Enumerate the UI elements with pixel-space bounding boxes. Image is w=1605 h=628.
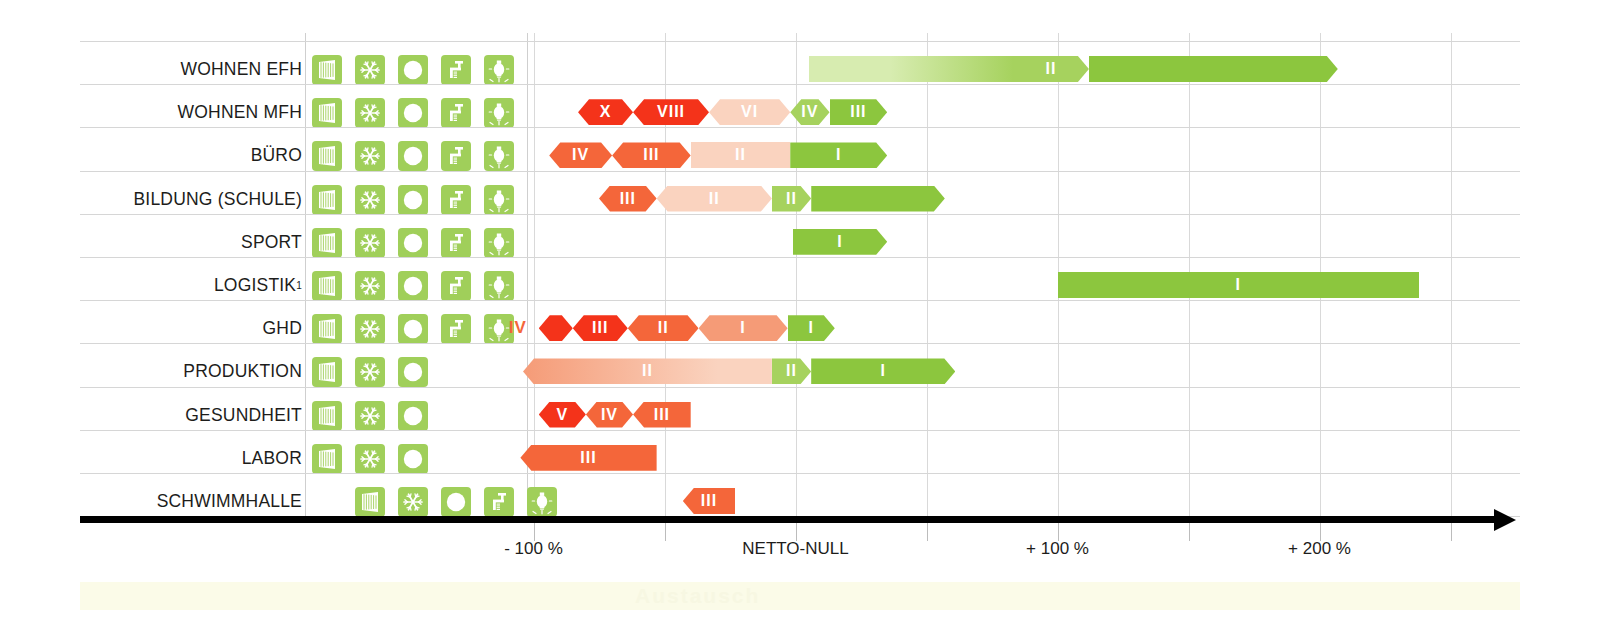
blinds-icon xyxy=(355,487,385,517)
bar-segment[interactable]: IV xyxy=(586,402,633,428)
axis-tick-label: + 100 % xyxy=(1026,539,1089,559)
bar[interactable]: XVIIIVIIVIII xyxy=(578,99,887,125)
bar-segment[interactable]: I xyxy=(793,229,887,255)
bar-segment-numeral: V xyxy=(556,407,568,423)
bar-segment[interactable]: III xyxy=(830,99,888,125)
bar-segment[interactable] xyxy=(539,315,573,341)
faucet-icon xyxy=(441,185,471,215)
bar-segment[interactable]: III xyxy=(633,402,691,428)
row-divider xyxy=(80,41,1520,42)
bar-segment[interactable]: IV xyxy=(549,142,612,168)
bar-segment[interactable]: I xyxy=(788,315,835,341)
circle-icon xyxy=(398,185,428,215)
circle-icon xyxy=(441,487,471,517)
bar[interactable]: I xyxy=(1058,272,1420,298)
bar-segment[interactable] xyxy=(1089,56,1338,82)
lightbulb-icon xyxy=(484,185,514,215)
bar-segment[interactable]: VI xyxy=(709,99,790,125)
bar-segment[interactable]: II xyxy=(691,142,791,168)
bar-segment-numeral: II xyxy=(1045,61,1056,77)
circle-icon xyxy=(398,55,428,85)
blinds-icon xyxy=(312,357,342,387)
axis-tick-label: - 100 % xyxy=(504,539,563,559)
bar-segment-numeral: III xyxy=(654,407,670,423)
faucet-icon xyxy=(441,141,471,171)
lightbulb-icon xyxy=(527,487,557,517)
bar-segment-numeral: II xyxy=(709,191,720,207)
circle-icon xyxy=(398,141,428,171)
lightbulb-icon xyxy=(484,271,514,301)
blinds-icon xyxy=(312,228,342,258)
bar-segment[interactable]: III xyxy=(612,142,691,168)
faucet-icon xyxy=(441,314,471,344)
circle-icon xyxy=(398,314,428,344)
bar-segment-numeral: III xyxy=(620,191,636,207)
bar-segment[interactable]: X xyxy=(578,99,633,125)
circle-icon xyxy=(398,401,428,431)
snowflake-icon xyxy=(355,185,385,215)
faucet-icon xyxy=(441,271,471,301)
bar-segment[interactable] xyxy=(811,186,945,212)
bar-segment-numeral: III xyxy=(580,450,596,466)
blinds-icon xyxy=(312,141,342,171)
axis-tick-label: + 200 % xyxy=(1288,539,1351,559)
bar-segment-numeral: VI xyxy=(741,104,758,120)
bar-segment[interactable]: I xyxy=(699,315,788,341)
bar[interactable]: IIIII xyxy=(523,358,955,384)
faucet-icon xyxy=(441,98,471,128)
bar[interactable]: VIVIII xyxy=(539,402,691,428)
bar[interactable]: I xyxy=(793,229,887,255)
bar-segment[interactable]: II xyxy=(657,186,772,212)
bar-segment-numeral: IV xyxy=(572,147,589,163)
bar[interactable]: IIIIIII xyxy=(599,186,945,212)
bar-segment[interactable]: III xyxy=(683,488,735,514)
bar-segment-numeral: II xyxy=(735,147,746,163)
bar-segment-numeral: I xyxy=(1236,277,1241,293)
snowflake-icon xyxy=(355,141,385,171)
faucet-icon xyxy=(441,55,471,85)
circle-icon xyxy=(398,98,428,128)
bar-segment[interactable]: II xyxy=(523,358,772,384)
bar-segment[interactable]: I xyxy=(1058,272,1420,298)
bar-segment-numeral: IV xyxy=(801,104,818,120)
row-divider xyxy=(80,127,1520,128)
x-axis-line xyxy=(80,516,1500,523)
bar-segment[interactable]: IV xyxy=(790,99,829,125)
chart-canvas: Austausch WOHNEN EFHIIWOHNEN MFHXVIIIVII… xyxy=(0,0,1605,628)
bar[interactable]: III xyxy=(520,445,656,471)
bar-segment[interactable]: II xyxy=(628,315,699,341)
bar[interactable]: IVIIIIII xyxy=(549,142,887,168)
bar-segment[interactable]: II xyxy=(772,186,811,212)
bar-segment[interactable]: II xyxy=(772,358,811,384)
blinds-icon xyxy=(312,314,342,344)
bar-segment-numeral: III xyxy=(643,147,659,163)
bar[interactable]: III xyxy=(683,488,735,514)
bar-segment[interactable] xyxy=(809,56,1013,82)
bar-segment-numeral: III xyxy=(701,493,717,509)
bar-segment[interactable]: III xyxy=(520,445,656,471)
bar-segment-numeral: X xyxy=(600,104,612,120)
blinds-icon xyxy=(312,98,342,128)
bar-segment[interactable]: I xyxy=(811,358,955,384)
snowflake-icon xyxy=(355,401,385,431)
bar-segment[interactable]: III xyxy=(573,315,628,341)
bar-segment[interactable]: III xyxy=(599,186,657,212)
bar-segment[interactable]: I xyxy=(790,142,887,168)
row-divider xyxy=(80,171,1520,172)
blinds-icon xyxy=(312,444,342,474)
blinds-icon xyxy=(312,55,342,85)
bar-segment-numeral: III xyxy=(850,104,866,120)
snowflake-icon xyxy=(355,98,385,128)
bar-segment-numeral: II xyxy=(658,320,669,336)
row-divider xyxy=(80,473,1520,474)
watermark-text: Austausch xyxy=(635,584,760,608)
axis-tick xyxy=(1451,523,1452,541)
bar[interactable]: II xyxy=(809,56,1338,82)
bar[interactable]: IIIIIII xyxy=(539,315,835,341)
bar-segment[interactable]: VIII xyxy=(633,99,709,125)
axis-tick xyxy=(927,523,928,541)
circle-icon xyxy=(398,271,428,301)
bar-segment[interactable]: II xyxy=(1013,56,1089,82)
snowflake-icon xyxy=(355,55,385,85)
bar-segment[interactable]: V xyxy=(539,402,586,428)
